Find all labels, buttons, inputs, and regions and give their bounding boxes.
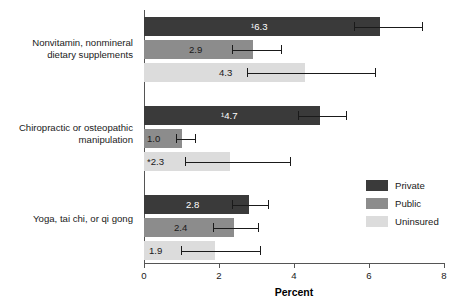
errorbar-cap-low-uninsured-1 <box>185 157 186 166</box>
errorbar-private-1 <box>298 116 346 117</box>
category-label-2: Yoga, tai chi, or qi gong <box>0 213 133 225</box>
errorbar-cap-low-private-2 <box>232 200 233 209</box>
errorbar-private-0 <box>354 27 422 28</box>
x-tick-1 <box>219 263 220 268</box>
x-tick-label-1: 2 <box>204 270 234 281</box>
x-tick-2 <box>294 263 295 268</box>
x-tick-label-2: 4 <box>279 270 309 281</box>
errorbar-cap-high-public-0 <box>281 45 282 54</box>
errorbar-uninsured-1 <box>185 162 290 163</box>
legend-item-public: Public <box>366 194 439 212</box>
x-tick-label-0: 0 <box>129 270 159 281</box>
errorbar-cap-low-public-2 <box>213 223 214 232</box>
errorbar-public-1 <box>176 139 195 140</box>
errorbar-cap-low-uninsured-0 <box>247 68 248 77</box>
bar-value-private-1: ¹4.7 <box>221 106 238 125</box>
legend-swatch-uninsured <box>366 216 388 227</box>
errorbar-cap-high-uninsured-2 <box>260 246 261 255</box>
bar-value-private-0: ¹6.3 <box>251 17 268 36</box>
bar-value-uninsured-1: *2.3 <box>147 152 164 171</box>
x-tick-3 <box>369 263 370 268</box>
x-tick-4 <box>444 263 445 268</box>
bar-value-uninsured-0: 4.3 <box>219 63 232 82</box>
errorbar-cap-low-public-0 <box>232 45 233 54</box>
errorbar-public-2 <box>213 228 258 229</box>
errorbar-cap-low-private-1 <box>298 111 299 120</box>
bar-value-uninsured-2: 1.9 <box>149 241 162 260</box>
legend-swatch-public <box>366 198 388 209</box>
bar-value-private-2: 2.8 <box>186 195 199 214</box>
legend-item-uninsured: Uninsured <box>366 212 439 230</box>
legend-label-uninsured: Uninsured <box>395 216 439 227</box>
errorbar-cap-high-public-2 <box>258 223 259 232</box>
legend-label-public: Public <box>395 198 421 209</box>
errorbar-cap-high-private-0 <box>422 22 423 31</box>
errorbar-uninsured-0 <box>247 73 375 74</box>
legend-item-private: Private <box>366 176 439 194</box>
bar-value-public-1: 1.0 <box>147 129 160 148</box>
x-tick-0 <box>144 263 145 268</box>
errorbar-cap-low-uninsured-2 <box>181 246 182 255</box>
errorbar-uninsured-2 <box>181 251 260 252</box>
errorbar-cap-high-private-1 <box>346 111 347 120</box>
x-tick-label-4: 8 <box>429 270 459 281</box>
errorbar-cap-high-public-1 <box>195 134 196 143</box>
x-tick-label-3: 6 <box>354 270 384 281</box>
legend: Private Public Uninsured <box>366 176 439 230</box>
bar-value-public-0: 2.9 <box>189 40 202 59</box>
category-label-0: Nonvitamin, nonmineral dietary supplemen… <box>0 37 133 60</box>
errorbar-cap-high-private-2 <box>268 200 269 209</box>
errorbar-cap-low-private-0 <box>354 22 355 31</box>
errorbar-cap-low-public-1 <box>176 134 177 143</box>
bar-value-public-2: 2.4 <box>174 218 187 237</box>
x-axis-title: Percent <box>144 286 444 298</box>
legend-label-private: Private <box>395 180 425 191</box>
errorbar-public-0 <box>232 50 281 51</box>
errorbar-cap-high-uninsured-0 <box>375 68 376 77</box>
category-label-1: Chiropractic or osteopathic manipulation <box>0 122 133 145</box>
legend-swatch-private <box>366 180 388 191</box>
bar-chart: Nonvitamin, nonmineral dietary supplemen… <box>0 0 464 307</box>
errorbar-cap-high-uninsured-1 <box>290 157 291 166</box>
errorbar-private-2 <box>232 205 268 206</box>
